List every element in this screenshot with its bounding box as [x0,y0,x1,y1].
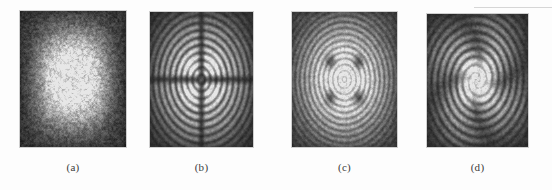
panel-d-caption: (d) [427,161,528,173]
panel-d [427,14,528,147]
panel-b [150,12,253,147]
panel-c-caption: (c) [292,161,397,173]
panel-a [20,11,126,147]
panel-c-image [292,12,397,147]
panel-a-caption: (a) [20,161,126,173]
panel-b-caption: (b) [150,161,253,173]
panel-a-image [20,11,126,147]
panel-b-image [150,12,253,147]
panel-d-image [427,14,528,147]
panel-c [292,12,397,147]
scanner-artifact-line [474,7,552,8]
figure-panel-group: (a)(b)(c)(d) [0,0,552,190]
